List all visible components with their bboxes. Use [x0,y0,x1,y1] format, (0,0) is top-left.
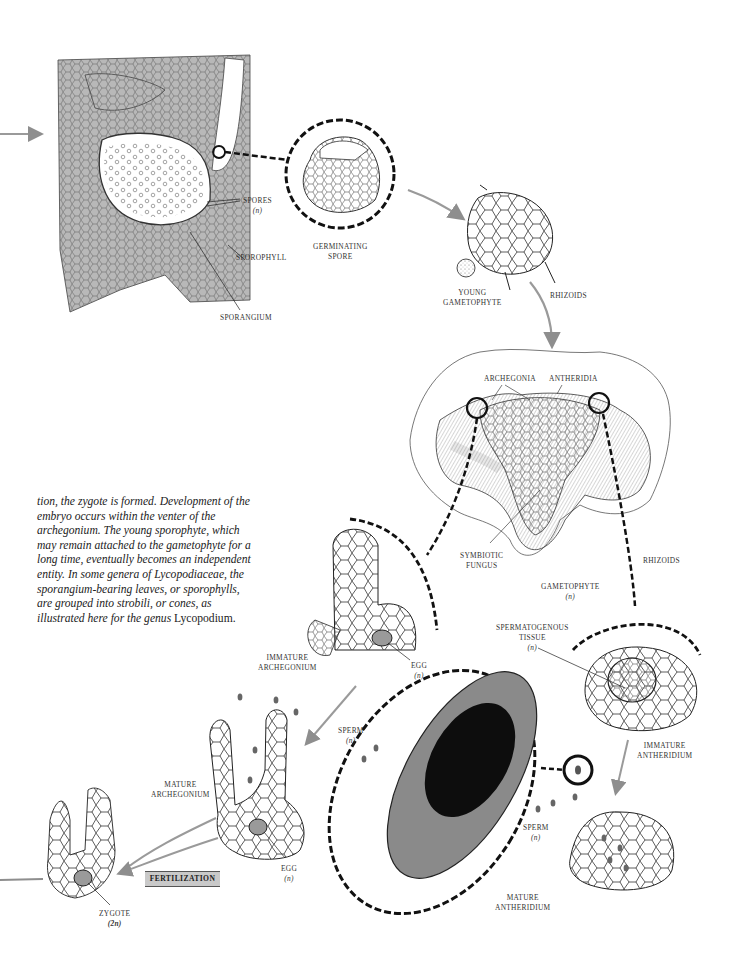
label-egg-top: EGG(n) [411,661,427,681]
label-antheridia: ANTHERIDIA [549,374,598,384]
mature-archegonium-drawing [210,693,304,859]
label-sperm-left: SPERM(n) [338,726,364,746]
label-young-gametophyte: YOUNGGAMETOPHYTE [443,288,502,308]
immature-antheridium-drawing [585,647,697,731]
young-gametophyte-drawing [457,185,555,290]
immature-archegonium-drawing [308,529,416,655]
label-mature-archegonium: MATUREARCHEGONIUM [151,780,210,800]
label-mature-antheridium: MATUREANTHERIDIUM [495,893,550,913]
label-zygote: ZYGOTE(2n) [99,909,130,929]
gametophyte-drawing [410,349,670,555]
label-rhizoids-top: RHIZOIDS [550,291,587,301]
label-gametophyte: GAMETOPHYTE(n) [541,582,600,602]
label-rhizoids-mid: RHIZOIDS [643,556,680,566]
label-sporangium: SPORANGIUM [220,313,272,323]
label-archegonia: ARCHEGONIA [484,374,536,384]
strobilus-section [58,55,250,312]
label-sporophyll: SPOROPHYLL [236,253,287,263]
caption-text: tion, the zygote is formed. Development … [37,495,252,626]
label-symbiotic-fungus: SYMBIOTICFUNGUS [460,551,503,571]
label-sperm-right: SPERM(n) [523,823,549,843]
fertilization-banner: FERTILIZATION [145,871,220,887]
label-spermatogenous-tissue: SPERMATOGENOUSTISSUE(n) [496,623,569,653]
life-cycle-illustration [0,0,741,967]
zygote-drawing [47,788,115,898]
label-spores: SPORES(n) [243,196,272,216]
label-immature-archegonium: IMMATUREARCHEGONIUM [258,653,317,673]
label-egg-bottom: EGG(n) [281,864,297,884]
label-immature-antheridium: IMMATUREANTHERIDIUM [637,741,692,761]
label-germinating-spore: GERMINATINGSPORE [313,242,368,262]
